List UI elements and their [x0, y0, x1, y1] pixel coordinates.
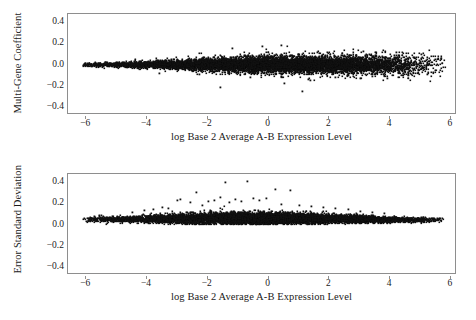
- y-tick-label: 0.4: [24, 16, 64, 26]
- x-tick-label: −6: [70, 278, 100, 289]
- x-tick-mark: [207, 116, 208, 119]
- y-tick-label: 0.2: [24, 37, 64, 47]
- x-tick-mark: [85, 276, 86, 279]
- plot-area-top: [67, 13, 456, 114]
- x-tick-mark: [389, 276, 390, 279]
- x-tick-mark: [85, 116, 86, 119]
- y-axis-ticks-bottom: −0.4−0.20.00.20.4: [22, 173, 64, 274]
- y-axis-ticks-top: −0.4−0.20.00.20.4: [22, 13, 64, 114]
- scatter-panel-error-standard-deviation: Error Standard Deviation −0.4−0.20.00.20…: [0, 160, 476, 320]
- y-tick-label: −0.2: [24, 80, 64, 90]
- x-tick-label: 2: [313, 278, 343, 289]
- x-tick-mark: [146, 276, 147, 279]
- x-tick-mark: [450, 276, 451, 279]
- x-tick-label: −6: [70, 118, 100, 129]
- plot-area-bottom: [67, 173, 456, 274]
- y-tick-label: −0.4: [24, 261, 64, 271]
- x-tick-label: −4: [131, 278, 161, 289]
- x-tick-mark: [207, 276, 208, 279]
- y-tick-label: −0.4: [24, 101, 64, 111]
- scatter-points-top: [68, 14, 456, 114]
- x-tick-mark: [268, 116, 269, 119]
- x-axis-label-top: log Base 2 Average A-B Expression Level: [67, 130, 456, 143]
- x-axis-ticks-top: −6−4−20246: [67, 116, 456, 130]
- x-tick-mark: [389, 116, 390, 119]
- x-tick-mark: [450, 116, 451, 119]
- y-tick-label: 0.2: [24, 197, 64, 207]
- x-tick-mark: [146, 116, 147, 119]
- x-tick-label: −2: [192, 278, 222, 289]
- y-tick-label: 0.0: [24, 59, 64, 69]
- x-tick-label: 6: [435, 118, 465, 129]
- x-tick-label: −4: [131, 118, 161, 129]
- x-tick-label: 6: [435, 278, 465, 289]
- x-tick-label: 0: [253, 118, 283, 129]
- figure-container: Multi-Gene Coefficient −0.4−0.20.00.20.4…: [0, 0, 476, 320]
- x-tick-label: 2: [313, 118, 343, 129]
- x-axis-ticks-bottom: −6−4−20246: [67, 276, 456, 290]
- y-tick-label: 0.0: [24, 219, 64, 229]
- x-tick-mark: [328, 276, 329, 279]
- y-tick-label: 0.4: [24, 176, 64, 186]
- x-tick-label: 4: [374, 278, 404, 289]
- x-tick-label: −2: [192, 118, 222, 129]
- x-axis-label-bottom: log Base 2 Average A-B Expression Level: [67, 290, 456, 303]
- scatter-panel-multi-gene-coefficient: Multi-Gene Coefficient −0.4−0.20.00.20.4…: [0, 0, 476, 160]
- x-tick-mark: [268, 276, 269, 279]
- x-tick-label: 0: [253, 278, 283, 289]
- x-tick-mark: [328, 116, 329, 119]
- x-tick-label: 4: [374, 118, 404, 129]
- scatter-points-bottom: [68, 174, 456, 274]
- y-tick-label: −0.2: [24, 240, 64, 250]
